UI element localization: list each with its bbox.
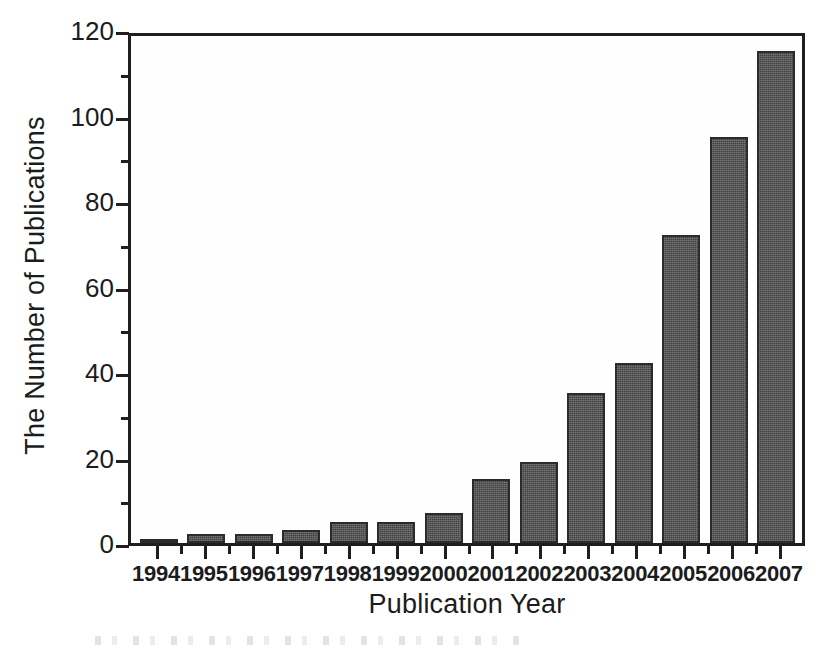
x-tick-minor: [324, 546, 327, 554]
x-tick-minor: [276, 546, 279, 554]
x-tick-minor: [420, 546, 423, 554]
x-tick-label: 2002: [515, 561, 563, 587]
bar: [710, 137, 748, 543]
x-tick-label: 1997: [276, 561, 324, 587]
x-tick-major: [300, 546, 303, 559]
x-tick-major: [635, 546, 638, 559]
bar: [140, 539, 178, 543]
x-tick-minor: [707, 546, 710, 554]
x-tick-major: [731, 546, 734, 559]
x-tick-major: [539, 546, 542, 559]
x-tick-major: [444, 546, 447, 559]
x-tick-label: 2004: [611, 561, 659, 587]
bar-slot: [135, 36, 183, 543]
bar-slot: [468, 36, 516, 543]
bar: [425, 513, 463, 543]
x-tick-label: 2007: [755, 561, 803, 587]
x-tick-label: 2000: [420, 561, 468, 587]
x-tick-major: [683, 546, 686, 559]
x-tick-minor: [755, 546, 758, 554]
x-tick-major: [204, 546, 207, 559]
x-tick-major: [348, 546, 351, 559]
x-tick-label: 1994: [132, 561, 180, 587]
bar-slot: [230, 36, 278, 543]
x-tick-label: 1996: [228, 561, 276, 587]
x-tick-minor: [659, 546, 662, 554]
x-tick-minor: [515, 546, 518, 554]
y-axis-title: The Number of Publications: [20, 36, 51, 536]
x-axis-title: Publication Year: [128, 589, 806, 620]
bar-slot: [278, 36, 326, 543]
x-tick-major: [396, 546, 399, 559]
bar-slot: [705, 36, 753, 543]
y-tick-label: 80: [48, 187, 114, 218]
bar-slot: [563, 36, 611, 543]
x-tick-label: 2001: [467, 561, 515, 587]
plot-area: [128, 33, 805, 546]
x-tick-major: [491, 546, 494, 559]
bar: [187, 534, 225, 543]
x-tick-label: 1998: [324, 561, 372, 587]
bar-slot: [753, 36, 801, 543]
x-tick-minor: [228, 546, 231, 554]
x-tick-minor: [372, 546, 375, 554]
x-axis-tick-labels: 1994199519961997199819992000200120022003…: [128, 561, 805, 587]
y-tick-label: 0: [48, 529, 114, 560]
y-tick-label: 100: [48, 102, 114, 133]
x-tick-major: [587, 546, 590, 559]
bar: [472, 479, 510, 543]
y-tick-label: 120: [48, 16, 114, 47]
y-tick-label: 60: [48, 273, 114, 304]
bar-series: [131, 36, 802, 543]
y-tick-label: 40: [48, 358, 114, 389]
bar-slot: [420, 36, 468, 543]
x-tick-label: 2003: [563, 561, 611, 587]
bar-slot: [658, 36, 706, 543]
x-tick-label: 2006: [707, 561, 755, 587]
bar: [662, 235, 700, 543]
x-tick-label: 2005: [659, 561, 707, 587]
x-tick-label: 1999: [372, 561, 420, 587]
y-tick-label: 20: [48, 444, 114, 475]
x-tick-major: [156, 546, 159, 559]
x-tick-major: [252, 546, 255, 559]
publication-year-bar-chart: The Number of Publications 0204060801001…: [0, 0, 834, 651]
x-tick-major: [779, 546, 782, 559]
bar: [615, 363, 653, 543]
bar: [235, 534, 273, 543]
bar: [282, 530, 320, 543]
bar-slot: [515, 36, 563, 543]
bar: [567, 393, 605, 543]
x-tick-minor: [563, 546, 566, 554]
bar: [757, 51, 795, 543]
x-tick-minor: [611, 546, 614, 554]
scan-artifact: [95, 636, 525, 645]
bar: [330, 522, 368, 543]
bar-slot: [325, 36, 373, 543]
bar-slot: [183, 36, 231, 543]
bar: [520, 462, 558, 543]
x-tick-minor: [180, 546, 183, 554]
x-tick-label: 1995: [180, 561, 228, 587]
bar-slot: [610, 36, 658, 543]
bar: [377, 522, 415, 543]
x-tick-minor: [468, 546, 471, 554]
bar-slot: [373, 36, 421, 543]
